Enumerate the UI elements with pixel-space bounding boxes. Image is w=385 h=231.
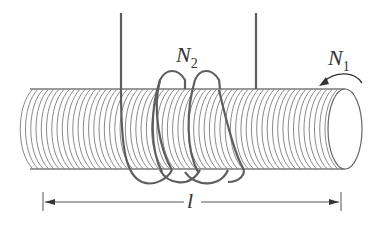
length-label: l [187, 190, 193, 212]
n1-label: N1 [328, 47, 350, 69]
rotation-arrow-icon [319, 74, 362, 86]
n2-label: N2 [176, 44, 198, 66]
solenoid-diagram: N2 N1 l [0, 0, 385, 231]
